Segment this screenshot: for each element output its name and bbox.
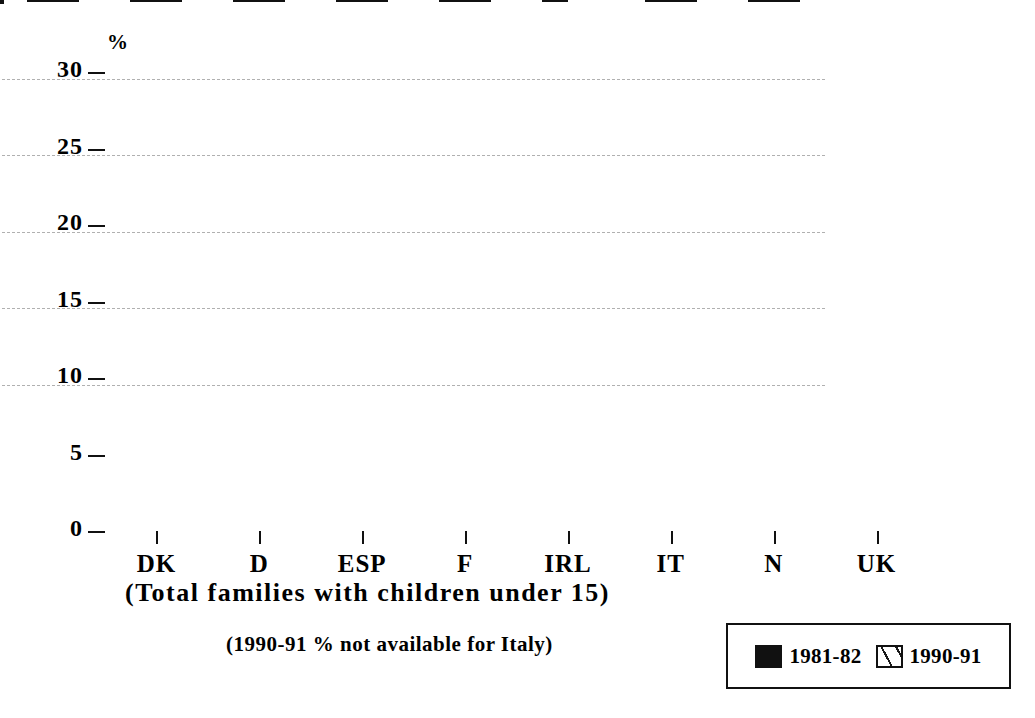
bar-f-1981-82: [336, 0, 362, 2]
bar-irl-1990-91: [465, 0, 491, 2]
bar-f-1990-91: [362, 0, 388, 2]
y-axis-unit-label: %: [107, 30, 128, 55]
x-tick-mark: [362, 531, 364, 544]
x-tick-mark: [877, 531, 879, 544]
y-tick-label: 0: [70, 515, 83, 542]
bar-d-1990-91: [156, 0, 182, 2]
legend-swatch-hatched-icon: [876, 645, 903, 668]
y-tick-mark: [88, 455, 105, 457]
y-tick-mark: [88, 72, 105, 74]
chart-page: % 051015202530 DKDESPFIRLITNUK (Total fa…: [0, 0, 1035, 718]
x-tick-mark: [774, 531, 776, 544]
bar-dk-1990-91: [53, 0, 79, 2]
y-tick-mark: [88, 225, 105, 227]
legend-entry-1981-82: 1981-82: [755, 644, 861, 669]
y-tick-mark: [88, 378, 105, 380]
y-tick-mark: [88, 531, 105, 533]
y-tick-mark: [88, 302, 105, 304]
bar-uk-1990-91: [774, 0, 800, 2]
plot-area: [0, 0, 4, 4]
bar-n-1990-91: [671, 0, 697, 2]
gridline: [2, 385, 825, 386]
y-tick-mark: [88, 149, 105, 151]
gridline: [2, 155, 825, 156]
bar-uk-1981-82: [748, 0, 774, 2]
bar-dk-1981-82: [27, 0, 53, 2]
bar-esp-1990-91: [259, 0, 285, 2]
bar-it-1981-82: [542, 0, 568, 2]
x-tick-mark: [156, 531, 158, 544]
bar-irl-1981-82: [439, 0, 465, 2]
x-tick-mark: [465, 531, 467, 544]
bar-n-1981-82: [645, 0, 671, 2]
x-tick-mark: [259, 531, 261, 544]
gridline: [2, 79, 825, 80]
chart-footnote: (1990-91 % not available for Italy): [226, 632, 553, 657]
gridline: [2, 232, 825, 233]
chart-legend: 1981-821990-91: [726, 623, 1011, 689]
legend-label: 1990-91: [910, 644, 982, 669]
x-tick-mark: [671, 531, 673, 544]
legend-label: 1981-82: [789, 644, 861, 669]
bar-esp-1981-82: [233, 0, 259, 2]
y-tick-label: 5: [70, 439, 83, 466]
x-tick-mark: [568, 531, 570, 544]
bar-d-1981-82: [130, 0, 156, 2]
x-axis-title: (Total families with children under 15): [125, 578, 610, 608]
legend-entry-1990-91: 1990-91: [876, 644, 982, 669]
gridline: [2, 308, 825, 309]
legend-swatch-solid-icon: [755, 645, 782, 668]
x-category-label-uk: UK: [817, 550, 937, 578]
